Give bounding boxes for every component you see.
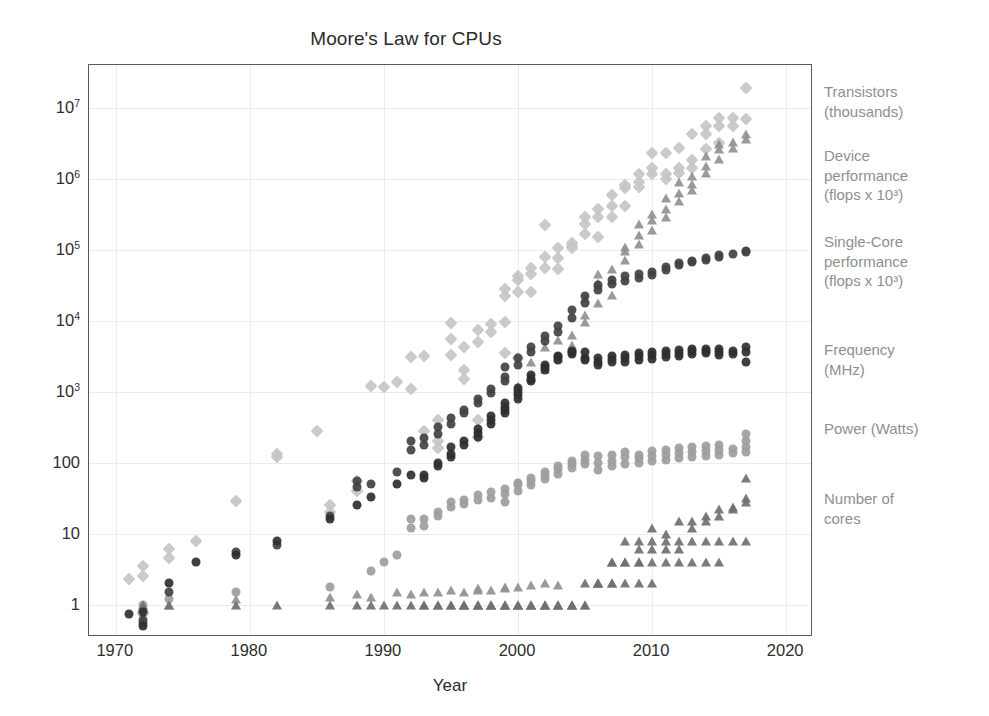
data-point [728,502,738,511]
data-point [471,336,484,349]
data-point [500,582,510,591]
data-point [594,360,603,369]
data-point [701,254,710,263]
gridline-vertical [250,65,251,635]
data-point [594,451,603,460]
y-axis-tick-labels: 110100103104105106107 [8,64,80,636]
gridline-horizontal [89,605,811,606]
data-point [326,582,335,591]
data-point [661,262,670,271]
data-point [471,431,484,444]
data-point [687,557,697,566]
data-point [741,358,750,367]
data-point [433,430,442,439]
data-point [632,180,645,193]
data-point [552,242,565,255]
data-point [445,333,458,346]
data-point [433,422,442,431]
data-point [607,579,617,588]
x-axis-tick-label: 1990 [365,641,402,660]
data-point [473,432,482,441]
data-point [714,139,724,148]
y-axis-tick-label: 106 [16,167,80,188]
data-point [674,454,683,463]
data-point [688,344,697,353]
data-point [620,557,630,566]
data-point [726,111,739,124]
data-point [270,447,283,460]
data-point [674,345,683,354]
data-point [713,119,726,132]
data-point [324,506,337,519]
data-point [526,580,536,589]
data-point [404,382,417,395]
data-point [687,180,697,189]
data-point [701,169,711,178]
data-point [485,325,498,338]
data-point [714,505,724,514]
data-point [621,350,630,359]
data-point [661,204,671,213]
data-point [593,579,603,588]
data-point [527,343,536,352]
data-point [686,153,699,166]
data-point [163,543,176,556]
data-point [674,197,684,206]
data-point [634,545,644,554]
data-point [525,262,538,275]
data-point [540,343,550,352]
y-axis-tick-label: 104 [16,309,80,330]
data-point [500,373,509,382]
data-point [581,292,590,301]
legend: Transistors (thousands)Device performanc… [824,64,989,636]
data-point [621,460,630,469]
data-point [620,557,630,566]
data-point [634,270,643,279]
data-point [473,424,482,433]
data-point [741,430,750,439]
gridline-horizontal [89,250,811,251]
data-point [445,348,458,361]
data-point [699,119,712,132]
data-point [567,457,576,466]
data-point [526,373,536,382]
data-point [460,409,469,418]
data-point [527,348,536,357]
data-point [553,336,563,345]
data-point [136,605,149,618]
data-point [701,151,711,160]
data-point [701,451,710,460]
data-point [420,441,429,450]
data-point [406,437,415,446]
data-point [165,579,174,588]
data-point [525,286,538,299]
data-point [540,336,549,345]
data-point [728,536,738,545]
data-point [620,536,630,545]
data-point [526,358,536,367]
data-point [500,403,509,412]
gridline-vertical [652,65,653,635]
data-point [728,144,738,153]
data-point [687,524,697,533]
data-point [433,511,442,520]
y-axis-tick-label: 100 [16,452,80,471]
data-point [607,354,616,363]
data-point [420,474,429,483]
data-point [594,465,603,474]
data-point [688,448,697,457]
data-point [606,210,619,223]
data-point [594,353,603,362]
data-point [713,112,726,125]
data-point [620,255,630,264]
data-point [674,545,684,554]
data-point [163,552,176,565]
plot-area [89,65,811,635]
data-point [540,366,549,375]
data-point [607,291,617,300]
data-point [406,446,415,455]
data-point [311,425,324,438]
data-point [447,443,456,452]
data-point [661,265,670,274]
gridline-vertical [518,65,519,635]
